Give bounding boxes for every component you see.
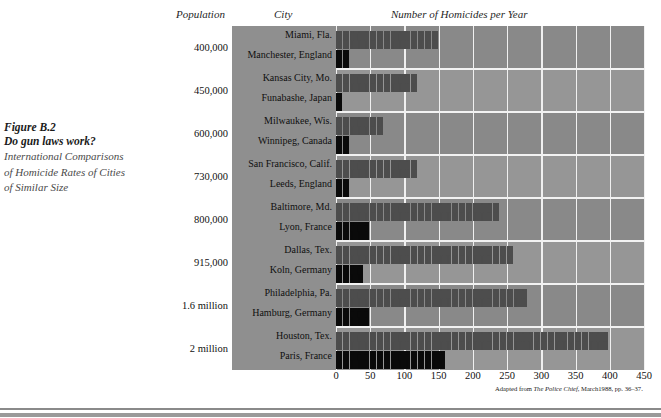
pictogram-bar (336, 176, 644, 197)
pictogram-figure-icon (356, 351, 362, 369)
pictogram-figure-icon (418, 351, 424, 369)
pictogram-figure-icon (336, 351, 342, 369)
pictogram-figure-icon (343, 308, 349, 326)
pictogram-figure-icon (411, 351, 417, 369)
pictogram-figure-icon (397, 351, 403, 369)
pictogram-figure-icon (356, 265, 362, 283)
pictogram-figure-icon (363, 351, 369, 369)
pictogram-bar (336, 243, 644, 264)
pictogram-bar (336, 114, 644, 135)
pictogram-bar (336, 305, 644, 326)
pictogram-bar (336, 133, 644, 154)
pictogram-figure-icon (343, 351, 349, 369)
pictogram-bar (336, 90, 644, 111)
city-label: Milwaukee, Wis. (264, 115, 332, 127)
pictogram-bar (336, 329, 644, 350)
pictogram-figure-icon (363, 308, 369, 326)
pictogram-bar (336, 28, 644, 49)
pictogram-figure-icon (343, 179, 349, 197)
city-label-pair: Kansas City, Mo.Funabashe, Japan (232, 69, 336, 112)
pictogram-figure-icon (377, 351, 383, 369)
city-label-pair: Houston, Tex.Paris, France (232, 327, 336, 370)
city-label-pair: San Francisco, Calif.Leeds, England (232, 155, 336, 198)
population-label: 730,000 (150, 155, 232, 198)
city-label-pair: Dallas, Tex.Koln, Germany (232, 241, 336, 284)
pictogram-figure-icon (356, 308, 362, 326)
pictogram-figure-icon (370, 351, 376, 369)
city-label-pair: Baltimore, Md.Lyon, France (232, 198, 336, 241)
pictogram-figure-icon (343, 265, 349, 283)
x-axis-tick-label: 350 (568, 370, 584, 381)
pictogram-figure-icon (404, 351, 410, 369)
column-header-population: Population (176, 8, 225, 20)
city-label: Houston, Tex. (276, 330, 332, 342)
pictogram-figure-icon (438, 351, 444, 369)
city-label: Leeds, England (270, 178, 332, 190)
city-label-column: Miami, Fla.Manchester, EnglandKansas Cit… (232, 26, 336, 370)
x-axis-tick-label: 400 (602, 370, 618, 381)
pictogram-figure-icon (350, 308, 356, 326)
city-label: Manchester, England (247, 49, 332, 61)
pictogram-figure-icon (343, 222, 349, 240)
pictogram-bar (336, 219, 644, 240)
column-header-homicides: Number of Homicides per Year (391, 8, 527, 20)
city-label: San Francisco, Calif. (248, 158, 332, 170)
population-label: 400,000 (150, 26, 232, 69)
pictogram-figure-icon (363, 222, 369, 240)
city-label: Hamburg, Germany (252, 307, 332, 319)
source-publication: The Police Chief (533, 385, 577, 392)
x-axis-tick-label: 250 (499, 370, 515, 381)
gridline-450 (644, 26, 645, 370)
column-header-city: City (274, 8, 292, 20)
pictogram-bar (336, 200, 644, 221)
city-label-pair: Milwaukee, Wis.Winnipeg, Canada (232, 112, 336, 155)
pictogram-figure-icon (336, 136, 342, 154)
pictogram-figure-icon (425, 351, 431, 369)
pictogram-figure-icon (336, 50, 342, 68)
population-label: 450,000 (150, 69, 232, 112)
pictogram-figure-icon (391, 351, 397, 369)
city-label: Winnipeg, Canada (258, 135, 332, 147)
city-label: Koln, Germany (270, 264, 332, 276)
population-column: 400,000450,000600,000730,000800,000915,0… (150, 26, 232, 370)
pictogram-figure-icon (432, 351, 438, 369)
city-label: Dallas, Tex. (284, 244, 332, 256)
pictogram-figure-icon (350, 351, 356, 369)
pictogram-figure-icon (336, 265, 342, 283)
page-divider-rule-top (0, 408, 661, 410)
city-label-pair: Miami, Fla.Manchester, England (232, 26, 336, 69)
x-axis-tick-label: 100 (397, 370, 413, 381)
city-label: Lyon, France (279, 221, 332, 233)
city-label: Paris, France (280, 350, 332, 362)
population-label: 2 million (150, 327, 232, 370)
city-label-pair: Philadelphia, Pa.Hamburg, Germany (232, 284, 336, 327)
x-axis-tick-label: 150 (431, 370, 447, 381)
x-axis-tick-label: 0 (333, 370, 338, 381)
population-label: 1.6 million (150, 284, 232, 327)
population-label: 800,000 (150, 198, 232, 241)
population-label: 915,000 (150, 241, 232, 284)
source-suffix: , March1988, pp. 36–37. (578, 385, 643, 392)
pictogram-bar (336, 157, 644, 178)
page-divider-rule-bottom (0, 413, 661, 417)
city-label: Philadelphia, Pa. (265, 287, 333, 299)
city-label: Baltimore, Md. (271, 201, 332, 213)
pictogram-figure-icon (336, 308, 342, 326)
pictogram-figure-icon (336, 222, 342, 240)
city-label: Funabashe, Japan (261, 92, 332, 104)
pictogram-figure-icon (350, 222, 356, 240)
pictogram-bar (336, 348, 644, 369)
pictogram-figure-icon (336, 179, 342, 197)
population-label: 600,000 (150, 112, 232, 155)
pictogram-figure-icon (343, 50, 349, 68)
city-label: Miami, Fla. (285, 29, 332, 41)
pictogram-figure-icon (350, 265, 356, 283)
pictogram-figure-icon (336, 93, 342, 111)
pictogram-bar (336, 47, 644, 68)
x-axis-tick-label: 450 (636, 370, 652, 381)
pictogram-figure-icon (343, 136, 349, 154)
source-prefix: Adapted from (495, 385, 533, 392)
x-axis-tick-label: 300 (533, 370, 549, 381)
pictogram-figure-icon (384, 351, 390, 369)
x-axis-tick-label: 200 (465, 370, 481, 381)
